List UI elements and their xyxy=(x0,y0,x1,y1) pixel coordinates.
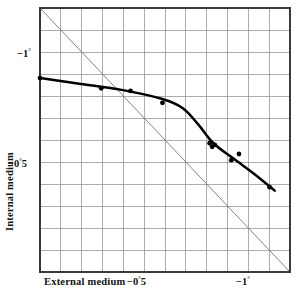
y-tick-1-0-degree: ° xyxy=(28,47,31,54)
plot-area xyxy=(0,0,305,300)
x-axis-title: External medium xyxy=(44,276,125,287)
y-tick-label-0-5: −0°5 xyxy=(8,158,27,169)
data-point-0 xyxy=(38,76,43,81)
x-tick-label-0-5: −0°5 xyxy=(127,276,146,287)
data-point-1 xyxy=(99,86,104,91)
y-tick-label-1-0: −1° xyxy=(17,48,31,59)
data-point-8 xyxy=(237,152,242,157)
data-point-3 xyxy=(160,100,165,105)
x-tick-1-0-degree: ° xyxy=(247,275,250,282)
data-point-2 xyxy=(128,89,133,94)
x-tick-1-0-number: −1 xyxy=(236,276,247,287)
data-point-7 xyxy=(229,158,234,163)
data-point-9 xyxy=(267,185,272,190)
y-tick-1-0-number: −1 xyxy=(17,48,28,59)
y-tick-0-5-number: −0 xyxy=(8,158,19,169)
data-point-6 xyxy=(212,142,217,147)
x-tick-0-5-number: −0 xyxy=(127,276,138,287)
x-tick-0-5-fraction: 5 xyxy=(141,276,146,287)
x-tick-label-1-0: −1° xyxy=(236,276,250,287)
figure-container: Internal medium External medium −0°5 −1°… xyxy=(0,0,305,300)
y-tick-0-5-fraction: 5 xyxy=(22,158,27,169)
